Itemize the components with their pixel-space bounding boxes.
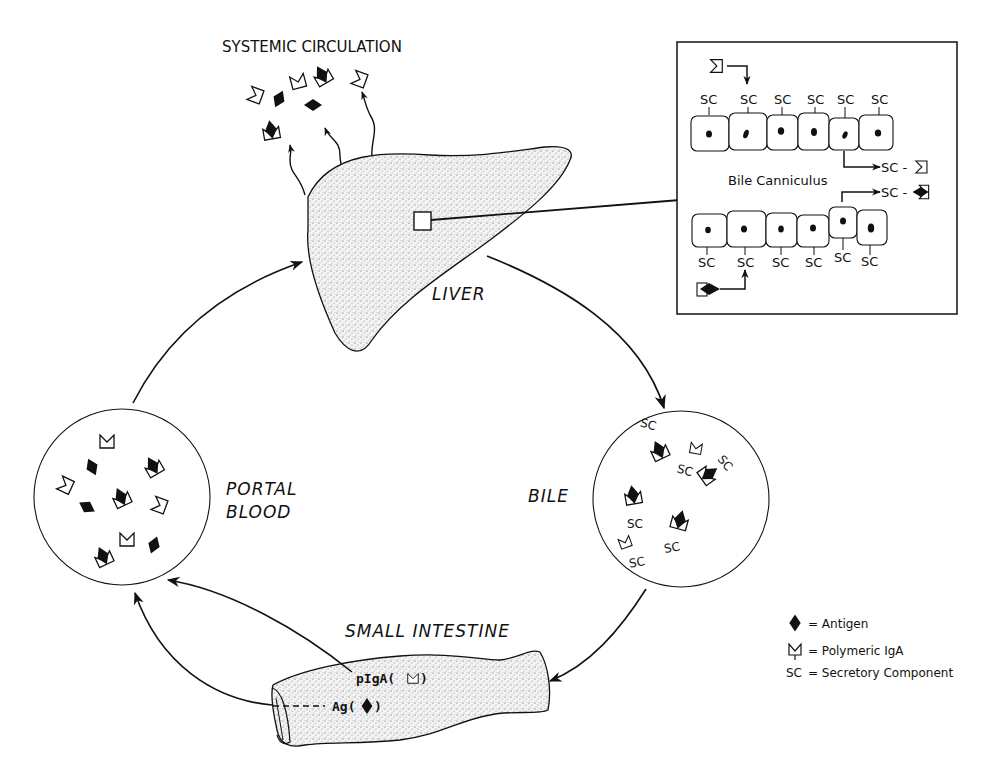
liver-zoom-region	[414, 212, 431, 230]
sc-label: SC	[627, 517, 643, 531]
polymeric-iga-icon	[290, 73, 307, 89]
liver-shape	[308, 147, 572, 352]
legend-polymeric-iga-text: = Polymeric IgA	[808, 644, 904, 658]
liver-to-bile-arrow	[487, 256, 664, 408]
sc-label: SC	[774, 92, 791, 107]
legend-polymeric-iga-icon	[789, 644, 801, 660]
efflux-arrow	[290, 145, 305, 195]
legend-sc-symbol: SC	[786, 666, 802, 680]
sc-label: SC	[628, 554, 646, 571]
bile-label: BILE	[528, 486, 569, 506]
portal-blood-group: PORTAL BLOOD	[34, 409, 297, 585]
sc-label: SC	[837, 92, 854, 107]
portal-blood-label: PORTAL	[226, 479, 297, 499]
bile-canniculus-label: Bile Canniculus	[728, 173, 828, 188]
bile-canniculus-inset: SC SC SC SC SC SC SC -	[677, 42, 957, 314]
sc-label: SC	[805, 255, 822, 270]
sc-label: SC	[807, 92, 824, 107]
sc-complex-output-label: SC -	[881, 185, 907, 200]
systemic-circulation-label: SYSTEMIC CIRCULATION	[222, 38, 402, 56]
antigen-icon	[304, 99, 322, 111]
bile-group: BILE SC SC SC SC SC SC	[528, 411, 769, 587]
bile-to-intestine-arrow	[550, 589, 646, 681]
small-intestine-shape	[272, 651, 550, 746]
hepatocyte-row-top	[691, 113, 893, 151]
legend-antigen-text: = Antigen	[808, 617, 868, 631]
antigen-to-portal-arrow	[135, 593, 272, 705]
sc-label: SC	[740, 92, 757, 107]
sc-label: SC	[871, 92, 888, 107]
piga-to-portal-arrow	[168, 580, 352, 672]
iga-antigen-complex-icon	[310, 62, 333, 86]
sc-label: SC	[737, 255, 754, 270]
sc-label: SC	[663, 539, 681, 556]
antigen-icon	[270, 88, 288, 109]
small-intestine-label: SMALL INTESTINE	[345, 621, 510, 641]
iga-antigen-complex-icon	[261, 119, 280, 140]
polymeric-iga-icon	[247, 86, 264, 104]
sc-label: SC	[834, 250, 851, 265]
enterohepatic-iga-diagram: SYSTEMIC CIRCULATION LIVER SC SC SC SC S…	[0, 0, 995, 776]
efflux-arrow	[362, 92, 375, 160]
sc-iga-output-label: SC -	[881, 160, 907, 175]
legend-sc-text: = Secretory Component	[808, 666, 953, 680]
legend-antigen-icon	[789, 614, 800, 631]
portal-blood-label-line2: BLOOD	[226, 502, 291, 522]
ag-label: Ag(	[332, 699, 355, 714]
liver-label: LIVER	[432, 284, 486, 304]
small-intestine-group: SMALL INTESTINE pIgA( ) Ag( )	[272, 621, 550, 746]
sc-label: SC	[772, 255, 789, 270]
legend: = Antigen = Polymeric IgA SC = Secretory…	[786, 614, 953, 680]
piga-label-close: )	[420, 671, 428, 686]
ag-label-close: )	[374, 699, 382, 714]
sc-label: SC	[698, 255, 715, 270]
bile-circle	[593, 411, 769, 587]
polymeric-iga-icon	[351, 70, 368, 88]
liver-group: LIVER	[308, 147, 680, 352]
sc-label: SC	[700, 92, 717, 107]
portal-to-liver-arrow	[133, 262, 302, 403]
sc-label: SC	[861, 254, 878, 269]
piga-label: pIgA(	[356, 671, 395, 686]
